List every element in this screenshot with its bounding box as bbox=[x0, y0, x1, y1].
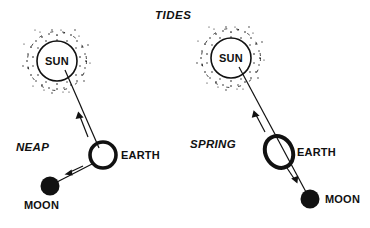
panel-label-spring: SPRING bbox=[190, 138, 236, 150]
earth-label: EARTH bbox=[297, 146, 336, 158]
moon-body-icon bbox=[301, 190, 320, 209]
moon-label: MOON bbox=[325, 193, 360, 205]
sun-label: SUN bbox=[45, 55, 69, 67]
earth-label: EARTH bbox=[121, 149, 160, 161]
tides-diagram-figure: TIDES bbox=[0, 0, 370, 228]
sun-label: SUN bbox=[219, 52, 243, 64]
tides-diagram-canvas: TIDES bbox=[0, 0, 370, 228]
panel-label-neap: NEAP bbox=[16, 141, 49, 153]
diagram-title: TIDES bbox=[155, 9, 191, 21]
moon-body-icon bbox=[41, 177, 60, 196]
moon-label: MOON bbox=[24, 199, 59, 211]
